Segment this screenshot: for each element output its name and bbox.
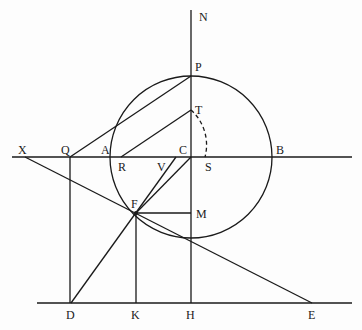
arc-TS-dashed xyxy=(191,110,207,157)
label-Q: Q xyxy=(61,143,70,157)
geometry-diagram: N P T C B A Q X R V S F M D K H E xyxy=(0,0,362,330)
label-D: D xyxy=(66,308,75,322)
line-DV xyxy=(71,157,176,303)
label-R: R xyxy=(118,160,126,174)
label-N: N xyxy=(199,10,208,24)
label-S: S xyxy=(205,160,212,174)
label-P: P xyxy=(195,60,202,74)
label-K: K xyxy=(131,308,140,322)
label-V: V xyxy=(157,160,166,174)
point-F xyxy=(134,211,138,215)
label-F: F xyxy=(131,197,138,211)
label-A: A xyxy=(101,143,110,157)
line-QP xyxy=(70,76,191,157)
label-E: E xyxy=(308,308,315,322)
diagram-canvas: N P T C B A Q X R V S F M D K H E xyxy=(0,0,362,330)
label-C: C xyxy=(179,143,187,157)
label-B: B xyxy=(276,143,284,157)
label-X: X xyxy=(18,143,27,157)
label-M: M xyxy=(196,207,207,221)
label-T: T xyxy=(195,103,203,117)
label-H: H xyxy=(186,308,195,322)
